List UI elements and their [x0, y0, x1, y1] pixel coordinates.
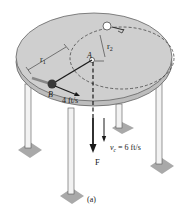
figure-caption: (a)	[87, 195, 96, 204]
label-force: F	[95, 157, 100, 167]
label-a: A	[86, 51, 92, 60]
label-b: B	[48, 90, 53, 99]
ball-b	[48, 80, 57, 89]
velocity-c-arrow	[102, 118, 106, 142]
table-diagram: A B r1 r2 4 ft/s F vc = 6 ft/s (a)	[0, 0, 187, 219]
force-f-arrow	[90, 118, 97, 153]
label-speed-b: 4 ft/s	[62, 96, 78, 105]
label-speed-c: vc = 6 ft/s	[110, 143, 141, 153]
